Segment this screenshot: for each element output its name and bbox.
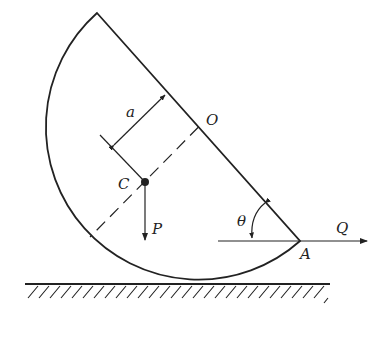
label-a: a <box>126 103 135 121</box>
dimension-a-line <box>114 95 165 145</box>
label-theta: θ <box>237 212 246 230</box>
label-O: O <box>206 111 218 129</box>
label-P: P <box>151 220 163 238</box>
label-C: C <box>118 175 130 193</box>
angle-theta-arc <box>252 203 265 238</box>
ground <box>25 284 330 303</box>
semicircle-statics-diagram: a O C P Q A θ <box>0 0 376 349</box>
label-Q: Q <box>336 219 348 237</box>
semicircle-body <box>46 13 300 280</box>
label-A: A <box>298 245 311 263</box>
